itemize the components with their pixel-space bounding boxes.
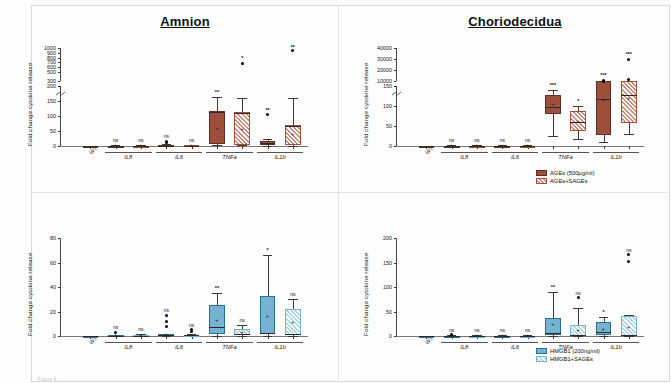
significance-label-top_right-IL1b-1: *** <box>615 51 643 57</box>
mean-marker-bottom_left-IL1b-1: + <box>291 319 295 325</box>
x-group-line-bottom_left-IL6 <box>156 342 203 343</box>
x-cat-label-bottom_left-IL6: IL6 <box>155 344 203 350</box>
whisker-cap-bottom-top_left-IL1b-0 <box>263 146 272 147</box>
x-cat-label-top_right-IL1b: IL1b <box>592 154 640 160</box>
legend-swatch-ages-sages-icon <box>536 178 547 184</box>
x-tick-top_right-5 <box>553 146 554 149</box>
median-line-top_right-WT-0 <box>419 146 435 147</box>
whisker-cap-top-bottom_left-TNFa-0 <box>212 293 221 294</box>
panel-divider-horizontal <box>32 192 667 193</box>
x-group-line-top_right-TNFa <box>542 152 589 153</box>
mean-marker-bottom_right-TNFa-1: + <box>576 327 580 333</box>
whisker-cap-top-top_right-TNFa-0 <box>548 90 557 91</box>
y-axis-line-bottom_left <box>60 238 61 336</box>
legend-label-ages-sages: AGEs+SAGEs <box>550 178 588 184</box>
mean-marker-bottom_right-IL1b-0: + <box>602 326 606 332</box>
x-group-line-bottom_right-TNFa <box>542 342 589 343</box>
mean-marker-top_left-IL1b-1: + <box>291 131 295 137</box>
x-group-line-bottom_right-IL6 <box>492 342 539 343</box>
x-cat-label-top_left-IL8: IL8 <box>104 154 152 160</box>
significance-label-bottom_left-IL8-0: ns <box>102 324 130 330</box>
y-tick-bottom_left-40 <box>58 287 61 288</box>
outlier-bottom_left-IL6-0-1 <box>165 320 168 323</box>
significance-label-bottom_left-TNFa-1: ns <box>228 317 256 323</box>
y-tick-label-top_left-1000: 1000 <box>28 45 56 51</box>
y-tick-label-bottom_left-80: 80 <box>28 235 56 241</box>
significance-label-top_left-TNFa-1: * <box>228 55 256 61</box>
significance-label-bottom_right-IL8-0: ns <box>438 327 466 333</box>
x-cat-label-top_right-TNFa: TNFa <box>542 154 590 160</box>
whisker-cap-bottom-top_right-IL1b-1 <box>624 134 633 135</box>
significance-label-bottom_left-IL8-1: ns <box>127 326 155 332</box>
x-tick-top_right-8 <box>629 146 630 149</box>
legend-item-hmgb1-sages: HMGB1+SAGEs <box>536 356 600 362</box>
significance-label-top_right-TNFa-0: *** <box>539 82 567 88</box>
legend-label-hmgb1-sages: HMGB1+SAGEs <box>550 356 593 362</box>
x-group-line-top_left-IL1b <box>257 152 304 153</box>
significance-label-bottom_left-IL1b-0: * <box>254 247 282 253</box>
median-line-top_right-TNFa-0 <box>545 107 561 108</box>
whisker-cap-bottom-bottom_right-IL1b-1 <box>624 336 633 337</box>
whisker-cap-bottom-top_left-TNFa-1 <box>237 145 246 146</box>
x-group-line-bottom_left-IL1b <box>257 342 304 343</box>
whisker-cap-bottom-bottom_left-IL1b-0 <box>263 336 272 337</box>
median-line-top_left-TNFa-1 <box>234 113 250 114</box>
mean-marker-top_left-TNFa-0: + <box>215 125 219 131</box>
axis-break-icon-top_right <box>392 82 401 87</box>
y-tick-top_right-20000 <box>394 70 397 71</box>
median-line-top_left-IL1b-1 <box>285 126 301 127</box>
y-tick-bottom_left-60 <box>58 263 61 264</box>
significance-label-top_right-IL1b-0: *** <box>590 72 618 78</box>
x-cat-label-bottom_right-IL8: IL8 <box>440 344 488 350</box>
x-group-line-bottom_right-IL8 <box>441 342 488 343</box>
whisker-cap-top-top_left-TNFa-1 <box>237 98 246 99</box>
median-line-top_left-TNFa-0 <box>209 112 225 113</box>
median-line-bottom_left-TNFa-0 <box>209 327 225 328</box>
y-tick-label-top_left-0: 0 <box>28 143 56 149</box>
significance-label-top_right-IL8-1: ns <box>463 137 491 143</box>
significance-label-top_left-TNFa-0: ** <box>203 89 231 95</box>
x-cat-label-top_left-IL1b: IL1b <box>256 154 304 160</box>
x-tick-top_right-6 <box>578 146 579 149</box>
x-group-line-bottom_left-TNFa <box>206 342 253 343</box>
y-tick-top_left-700 <box>58 62 61 63</box>
y-tick-label-top_right-40000: 40000 <box>364 45 392 51</box>
y-tick-bottom_right-0 <box>394 336 397 337</box>
y-tick-label-top_right-10000: 10000 <box>364 78 392 84</box>
whisker-cap-top-bottom_left-IL1b-1 <box>288 299 297 300</box>
significance-label-top_left-IL6-1: ns <box>178 137 206 143</box>
outlier-top_left-TNFa-1-0 <box>241 62 244 65</box>
whisker-cap-top-bottom_right-TNFa-1 <box>573 308 582 309</box>
significance-label-top_right-TNFa-1: * <box>564 98 592 104</box>
significance-label-top_left-IL6-0: ns <box>152 133 180 139</box>
significance-label-bottom_right-IL1b-0: * <box>590 309 618 315</box>
y-tick-top_left-100 <box>58 116 61 117</box>
x-cat-label-top_left-IL6: IL6 <box>155 154 203 160</box>
significance-label-top_right-IL6-0: ns <box>488 137 516 143</box>
whisker-cap-top-bottom_left-IL1b-0 <box>263 255 272 256</box>
y-tick-top_right-100 <box>394 106 397 107</box>
mean-marker-top_left-IL6-1: + <box>190 142 194 148</box>
figure-root: Amnion Choriodecidua Fold change cytokin… <box>0 0 671 383</box>
legend-top: AGEs (500µg/ml) AGEs+SAGEs <box>536 170 595 186</box>
x-tick-top_left-5 <box>217 146 218 149</box>
x-group-line-bottom_left-IL8 <box>105 342 152 343</box>
median-line-bottom_left-IL1b-1 <box>285 334 301 335</box>
y-tick-top_left-500 <box>58 72 61 73</box>
x-cat-label-top_left-TNFa: TNFa <box>206 154 254 160</box>
significance-label-bottom_right-IL8-1: ns <box>463 327 491 333</box>
outlier-top_right-IL1b-0-1 <box>602 79 605 82</box>
median-line-bottom_right-IL1b-0 <box>596 332 612 333</box>
whisker-cap-top-bottom_right-IL1b-0 <box>599 317 608 318</box>
mean-marker-bottom_left-IL1b-0: + <box>266 313 270 319</box>
whisker-cap-top-top_right-TNFa-1 <box>573 106 582 107</box>
whisker-cap-bottom-top_left-TNFa-0 <box>212 145 221 146</box>
x-cat-label-bottom_left-TNFa: TNFa <box>206 344 254 350</box>
significance-label-bottom_right-IL6-1: ns <box>514 327 542 333</box>
whisker-cap-bottom-top_right-TNFa-0 <box>548 136 557 137</box>
y-tick-top_left-600 <box>58 67 61 68</box>
y-tick-label-top_left-50: 50 <box>28 128 56 134</box>
y-tick-bottom_right-100 <box>394 287 397 288</box>
y-tick-top_left-0 <box>58 146 61 147</box>
whisker-cap-bottom-top_right-TNFa-1 <box>573 139 582 140</box>
